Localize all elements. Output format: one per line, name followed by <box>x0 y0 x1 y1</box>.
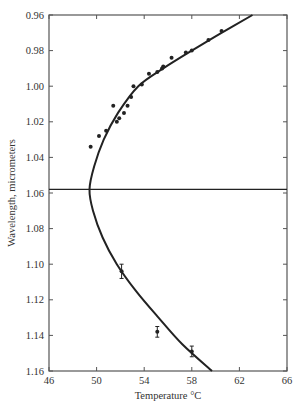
data-point <box>122 111 126 115</box>
data-point <box>184 50 188 54</box>
x-tick-label: 66 <box>282 375 293 386</box>
y-axis-ticks: 0.960.981.001.021.041.061.081.101.121.14… <box>26 10 287 377</box>
x-tick-label: 50 <box>91 375 102 386</box>
y-tick-label: 1.16 <box>26 366 44 377</box>
data-point <box>104 129 108 133</box>
data-point <box>97 134 101 138</box>
data-point <box>190 349 194 353</box>
data-point <box>111 104 115 108</box>
x-tick-label: 54 <box>139 375 150 386</box>
y-tick-label: 1.00 <box>26 81 44 92</box>
error-bar-points <box>120 264 194 357</box>
data-point <box>161 65 165 69</box>
x-axis-title: Temperature °C <box>135 390 202 401</box>
data-point <box>89 145 93 149</box>
x-axis-ticks: 465054586266 <box>44 15 293 386</box>
y-tick-label: 1.12 <box>26 294 44 305</box>
y-tick-label: 1.06 <box>26 188 44 199</box>
x-tick-label: 58 <box>187 375 198 386</box>
x-tick-label: 46 <box>44 375 55 386</box>
data-point <box>120 269 124 273</box>
data-point <box>140 82 144 86</box>
data-point <box>117 116 121 120</box>
data-point <box>155 330 159 334</box>
data-point <box>129 95 133 99</box>
y-tick-label: 1.08 <box>26 223 44 234</box>
data-point <box>190 49 194 53</box>
plot-border <box>49 15 287 371</box>
y-tick-label: 1.04 <box>26 152 45 163</box>
y-tick-label: 1.10 <box>26 259 44 270</box>
chart: 465054586266 0.960.981.001.021.041.061.0… <box>0 0 301 407</box>
plot-frame <box>49 15 287 371</box>
y-tick-label: 0.98 <box>26 45 44 56</box>
data-point <box>126 104 130 108</box>
y-tick-label: 1.14 <box>26 330 45 341</box>
y-tick-label: 1.02 <box>26 116 44 127</box>
data-point <box>131 84 135 88</box>
x-tick-label: 62 <box>234 375 245 386</box>
data-point <box>147 72 151 76</box>
y-axis-title: Wavelength, micrometers <box>6 139 17 247</box>
data-point <box>220 29 224 33</box>
data-point <box>170 56 174 60</box>
data-point <box>115 120 119 124</box>
y-tick-label: 0.96 <box>26 10 44 21</box>
data-point <box>155 70 159 74</box>
fitted-curve <box>89 15 252 371</box>
data-point <box>206 38 210 42</box>
